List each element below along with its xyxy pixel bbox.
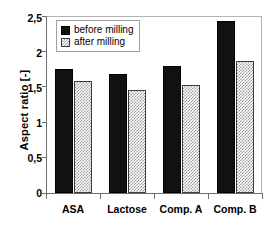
bar-lactose-before-milling: [109, 74, 127, 193]
legend-item-after-milling: after milling: [61, 36, 133, 48]
x-label-lactose: Lactose: [100, 203, 154, 215]
bar-asa-after-milling: [74, 81, 92, 193]
bar-asa-before-milling: [55, 69, 73, 193]
legend-swatch-before-milling-icon: [61, 26, 70, 35]
bar-lactose-after-milling: [128, 90, 146, 193]
x-tick-mark-4: [262, 194, 263, 199]
bar-comp-a-before-milling: [163, 66, 181, 193]
legend-label-before-milling: before milling: [74, 25, 133, 35]
y-tick-label-0-5: 0,5: [16, 153, 42, 164]
x-label-asa: ASA: [46, 203, 100, 215]
bar-chart: Aspect ratio [-] 2,5 2 1,5 1 0,5 0: [0, 0, 271, 236]
x-axis-category-labels: ASA Lactose Comp. A Comp. B: [46, 203, 263, 223]
x-tick-mark-1: [100, 194, 101, 199]
legend-swatch-after-milling-icon: [61, 38, 70, 47]
y-axis-tick-labels: 2,5 2 1,5 1 0,5 0: [16, 0, 42, 236]
bar-comp-b-after-milling: [236, 61, 254, 193]
bar-comp-a-after-milling: [182, 85, 200, 193]
y-tick-label-2-5: 2,5: [16, 13, 42, 24]
y-tick-label-1-5: 1,5: [16, 83, 42, 94]
legend-label-after-milling: after milling: [74, 37, 125, 47]
x-tick-mark-0: [46, 194, 47, 199]
x-label-comp-a: Comp. A: [154, 203, 208, 215]
x-tick-mark-3: [208, 194, 209, 199]
y-tick-label-2: 2: [16, 48, 42, 59]
bar-comp-b-before-milling: [217, 21, 235, 193]
y-tick-label-1: 1: [16, 118, 42, 129]
x-tick-mark-2: [154, 194, 155, 199]
legend: before milling after milling: [56, 20, 140, 52]
y-tick-label-0: 0: [16, 188, 42, 199]
legend-item-before-milling: before milling: [61, 24, 133, 36]
x-label-comp-b: Comp. B: [208, 203, 262, 215]
